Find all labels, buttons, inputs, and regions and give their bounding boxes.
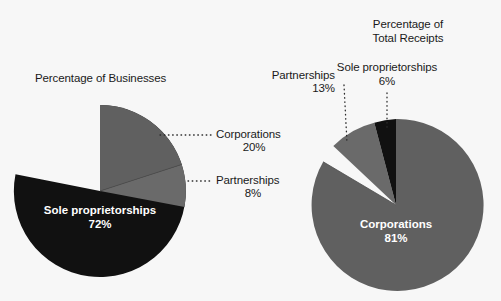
right-inner-label-value: 81%	[326, 231, 466, 245]
left-callout-corporations-value: 20%	[216, 141, 292, 155]
left-pie	[14, 105, 186, 277]
left-callout-partnerships-name: Partnerships	[216, 174, 279, 188]
left-callout-partnerships-value: 8%	[216, 187, 290, 201]
right-leader-partnerships	[344, 85, 347, 143]
left-callout-corporations-name: Corporations	[216, 128, 281, 142]
right-chart-title-line2: Total Receipts	[328, 31, 488, 45]
left-inner-label-name: Sole proprietorships	[20, 203, 180, 217]
right-pie	[312, 119, 484, 291]
left-inner-label-value: 72%	[20, 217, 180, 231]
right-callout-sole-proprietorships-value: 6%	[322, 75, 452, 89]
right-inner-label-name: Corporations	[326, 217, 466, 231]
pie-chart-figure: Percentage of Businesses Corporations 20…	[0, 0, 501, 301]
left-chart-title: Percentage of Businesses	[35, 71, 166, 85]
right-callout-sole-proprietorships-name: Sole proprietorships	[322, 61, 452, 75]
right-chart-title-line1: Percentage of	[328, 17, 488, 31]
